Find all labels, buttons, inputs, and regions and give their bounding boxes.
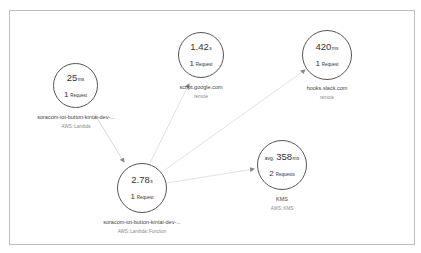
node-name: soracom-iot-button-kintai-dev-... [103,219,181,226]
node-request-count: 1Request [64,90,87,100]
node-latency: 1.42s [190,41,212,54]
node-latency: 25ms [67,72,85,85]
node-request-count: 1Request [315,59,338,69]
node-lambda-label: soracom-iot-button-kintai-dev-... AWS::L… [37,114,115,130]
node-request-count: 1Request [130,192,153,202]
node-type: AWS::Lambda::Function [103,228,181,235]
node-kms-label: KMS AWS::KMS [271,196,293,212]
node-name: hooks.slack.com [307,85,348,92]
node-latency: 2.78s [131,174,153,187]
node-latency: 420ms [315,41,338,54]
node-request-count: 2Requests [269,169,294,179]
node-request-count: 1Request [189,59,212,69]
node-slack[interactable]: 420ms 1Request [302,30,352,80]
edge-function-to-kms[interactable] [167,169,254,183]
node-latency: avg.358ms [265,151,299,164]
node-function-label: soracom-iot-button-kintai-dev-... AWS::L… [103,219,181,235]
node-function[interactable]: 2.78s 1Request [117,163,167,213]
node-type: remote [179,93,222,100]
node-lambda[interactable]: 25ms 1Request [53,63,98,108]
node-type: AWS::Lambda [37,123,115,130]
node-type: AWS::KMS [271,205,293,212]
node-name: script.google.com [179,84,222,91]
node-name: soracom-iot-button-kintai-dev-... [37,114,115,121]
node-google-label: script.google.com remote [179,84,222,100]
node-kms[interactable]: avg.358ms 2Requests [257,140,307,190]
node-slack-label: hooks.slack.com remote [307,85,348,101]
node-type: remote [307,94,348,101]
node-name: KMS [271,196,293,203]
node-google[interactable]: 1.42s 1Request [178,32,224,78]
